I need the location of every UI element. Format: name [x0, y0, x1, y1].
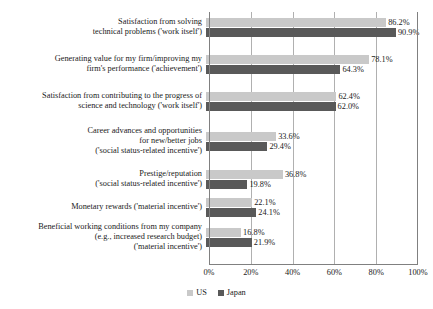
- chart-row: Beneficial working conditions from my co…: [0, 222, 433, 252]
- x-axis-tick-labels: 0%20%40%60%80%100%: [209, 267, 418, 281]
- bar-us: [206, 55, 369, 64]
- bar-value-label: 90.9%: [398, 28, 419, 37]
- x-tick-label: 40%: [285, 267, 300, 278]
- plot-area: Satisfaction from solving technical prob…: [0, 12, 433, 265]
- bar-value-label: 62.0%: [338, 102, 359, 111]
- legend-label: Japan: [227, 288, 246, 297]
- bar-value-label: 16.8%: [243, 228, 264, 237]
- x-tick-label: 60%: [327, 267, 342, 278]
- x-tick-label: 0%: [203, 267, 214, 278]
- bar-value-label: 24.1%: [258, 208, 279, 217]
- bar-us: [206, 198, 252, 207]
- bar-us: [206, 170, 283, 179]
- chart-row: Monetary rewards ('material incentive')2…: [0, 196, 433, 218]
- legend-label: US: [196, 288, 207, 297]
- bar-japan: [206, 208, 256, 217]
- bar-group: 33.6%29.4%: [206, 125, 433, 157]
- bar-group: 86.2%90.9%: [206, 14, 433, 40]
- bar-group: 78.1%64.3%: [206, 51, 433, 77]
- legend-item-us[interactable]: US: [187, 288, 207, 297]
- category-label: Monetary rewards ('material incentive'): [0, 202, 206, 212]
- bar-japan: [206, 65, 340, 74]
- bar-value-label: 64.3%: [342, 65, 363, 74]
- legend-swatch-icon: [187, 290, 193, 296]
- bar-us: [206, 228, 241, 237]
- chart-row: Satisfaction from solving technical prob…: [0, 14, 433, 40]
- bar-value-label: 62.4%: [338, 92, 359, 101]
- chart-row: Satisfaction from contributing to the pr…: [0, 88, 433, 114]
- bar-japan: [206, 238, 252, 247]
- category-label: Beneficial working conditions from my co…: [0, 222, 206, 253]
- bar-value-label: 86.2%: [388, 18, 409, 27]
- bar-value-label: 22.1%: [254, 198, 275, 207]
- chart-row: Generating value for my firm/improving m…: [0, 51, 433, 77]
- bar-group: 62.4%62.0%: [206, 88, 433, 114]
- bar-group: 16.8%21.9%: [206, 222, 433, 252]
- bar-japan: [206, 102, 336, 111]
- category-label: Generating value for my firm/improving m…: [0, 54, 206, 74]
- bar-value-label: 78.1%: [371, 55, 392, 64]
- chart-row: Prestige/reputation ('social status-rela…: [0, 166, 433, 192]
- bar-japan: [206, 28, 396, 37]
- chart-legend: USJapan: [0, 288, 433, 297]
- x-tick-label: 100%: [408, 267, 427, 278]
- bar-group: 36.8%19.8%: [206, 166, 433, 192]
- legend-item-japan[interactable]: Japan: [218, 288, 246, 297]
- bar-value-label: 29.4%: [269, 142, 290, 151]
- bar-japan: [206, 142, 267, 151]
- x-tick-label: 80%: [369, 267, 384, 278]
- bar-japan: [206, 180, 247, 189]
- legend-swatch-icon: [218, 290, 224, 296]
- bar-value-label: 21.9%: [254, 238, 275, 247]
- x-tick-label: 20%: [243, 267, 258, 278]
- bar-value-label: 33.6%: [278, 132, 299, 141]
- bar-value-label: 36.8%: [285, 170, 306, 179]
- bar-group: 22.1%24.1%: [206, 196, 433, 218]
- chart-row: Career advances and opportunities for ne…: [0, 125, 433, 157]
- bar-chart: Satisfaction from solving technical prob…: [0, 0, 433, 309]
- bar-us: [206, 92, 336, 101]
- category-label: Prestige/reputation ('social status-rela…: [0, 169, 206, 189]
- bar-us: [206, 18, 386, 27]
- category-label: Satisfaction from contributing to the pr…: [0, 91, 206, 111]
- clipped-top-text: [0, 0, 433, 3]
- category-label: Satisfaction from solving technical prob…: [0, 17, 206, 37]
- bar-us: [206, 132, 276, 141]
- bar-value-label: 19.8%: [249, 180, 270, 189]
- category-label: Career advances and opportunities for ne…: [0, 126, 206, 157]
